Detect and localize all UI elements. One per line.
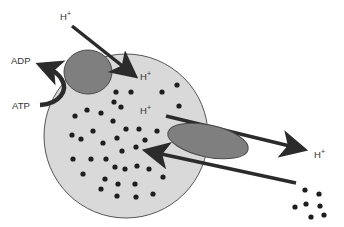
solute-dot [100,140,105,145]
solute-dot [84,107,89,112]
solute-dot [98,186,103,191]
solute-dot [90,128,95,133]
outside-solute-dots [292,187,326,219]
solute-dot [69,132,74,137]
h-ion-outside-label: H+ [314,148,325,160]
solute-dot [176,103,181,108]
solute-dot [112,164,117,169]
solute-dot [174,82,179,87]
solute-dot [70,156,75,161]
solute-dot [122,166,127,171]
solute-dot [159,89,164,94]
solute-dot [308,214,313,219]
solute-dot [72,113,77,118]
solute-dot [123,126,128,131]
solute-dot [128,89,133,94]
solute-dot [115,181,120,186]
proton-pump [64,50,112,94]
solute-dot [317,203,322,208]
h-ion-top-label: H+ [60,10,71,22]
solute-dot [146,166,151,171]
solute-dot [114,193,119,198]
solute-dot [142,137,147,142]
solute-dot [316,191,321,196]
solute-dot [111,99,116,104]
solute-dot [102,176,107,181]
adp-label: ADP [11,55,31,66]
solute-dot [133,144,138,149]
atp-label: ATP [12,100,30,111]
solute-dot [80,171,85,176]
solute-dot [98,110,103,115]
solute-dot [88,156,93,161]
solute-dot [118,104,123,109]
solute-dot [78,136,83,141]
solute-dot [103,156,108,161]
solute-dot [110,118,115,123]
solute-dot [321,212,326,217]
solute-dot [134,163,139,168]
solute-dot [160,174,165,179]
solute-dot [302,187,307,192]
solute-dot [136,126,141,131]
proton-pump-diagram: ADP ATP H+ H+ H+ H+ [0,0,344,227]
solute-dot [303,201,308,206]
solute-dot [113,89,118,94]
solute-dot [150,191,155,196]
solute-dot [133,194,138,199]
solute-dot [114,135,119,140]
solute-dot [292,204,297,209]
solute-dot [119,148,124,153]
solute-dot [132,181,137,186]
solute-dot [154,128,159,133]
